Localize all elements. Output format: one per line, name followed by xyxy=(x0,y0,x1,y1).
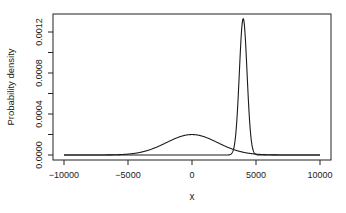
series-group xyxy=(64,19,320,155)
y-tick-label: 0.0000 xyxy=(34,141,44,169)
x-tick-label: −10000 xyxy=(49,170,79,180)
y-tick-label: 0.0008 xyxy=(34,59,44,87)
x-axis-label: x xyxy=(190,191,195,202)
plot-box xyxy=(53,14,331,160)
y-tick-label: 0.0004 xyxy=(34,100,44,128)
y-axis: 0.00000.00040.00080.0012 xyxy=(34,18,53,169)
x-tick-label: −5000 xyxy=(115,170,140,180)
broad-density-line xyxy=(64,135,320,155)
x-tick-label: 0 xyxy=(189,170,194,180)
y-tick-label: 0.0012 xyxy=(34,18,44,46)
x-tick-label: 5000 xyxy=(246,170,266,180)
x-tick-label: 10000 xyxy=(307,170,332,180)
density-chart: −10000−50000500010000 0.00000.00040.0008… xyxy=(0,0,346,213)
x-axis: −10000−50000500010000 xyxy=(49,160,333,180)
y-axis-label: Probability density xyxy=(5,48,16,125)
